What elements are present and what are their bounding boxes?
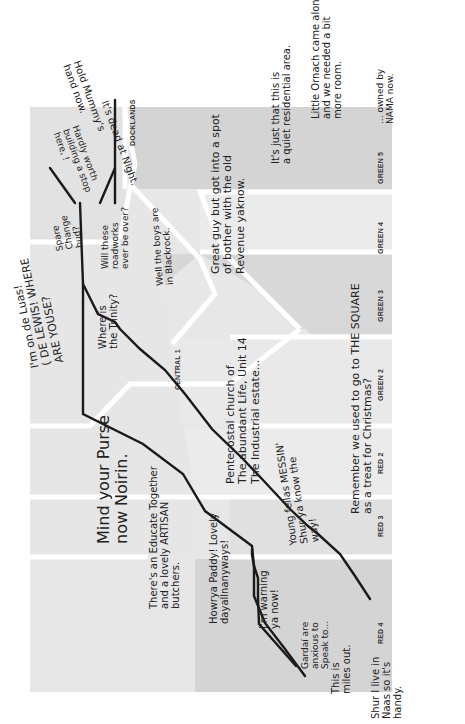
annotation-naas: Shur I live in Naas so it's handy. [370,657,404,719]
annotation-little-ornach: Little Ornach came along and we needed a… [310,0,344,119]
annotation-mind-purse: Mind your Purse now Noirin. [95,415,131,544]
zone-label-red4: RED 4 [377,622,384,644]
annotation-miles-out: This is miles out. [330,645,352,694]
annotation-remember-square: Remember we used to go to THE SQUARE as … [350,283,375,514]
zone-label-red3: RED 3 [377,515,384,537]
annotation-quiet-residential: It's just that this is a quiet residenti… [270,45,292,164]
annotation-roadworks: Will these roadworks ever be over? [100,207,130,269]
annotation-owned-by-nama: ... owned by NAMA now. [375,69,395,124]
annotation-great-guy: Great guy but got into a spot of bother … [210,114,247,274]
zone-label-green2: GREEN 2 [377,369,384,401]
annotation-gardai: Gardaí are anxious to Speak to... [300,621,330,669]
zone-label-green3: GREEN 3 [377,290,384,322]
luas-map: RED 4 RED 3 RED 2 GREEN 2 GREEN 3 GREEN … [0,0,465,724]
annotation-trinity: Where is the Trinity? [97,294,119,349]
annotation-im-warning: I'm warning ya now! [258,570,280,629]
zone-label-red2: RED 2 [377,452,384,474]
zone-label-docklands: DOCKLANDS [129,99,136,146]
annotation-educate-together: There's an Educate Together and a lovely… [148,466,182,609]
zone-label-green4: GREEN 4 [377,222,384,254]
annotation-pentecostal: Pentecostal church of The abundant Life,… [225,337,262,484]
annotation-howrya-paddy: Howrya Paddy! Lovely dayallnanyways! [208,513,230,624]
annotation-spare-change: Spare Change bud? [49,213,85,252]
zone-label-green5: GREEN 5 [377,152,384,184]
